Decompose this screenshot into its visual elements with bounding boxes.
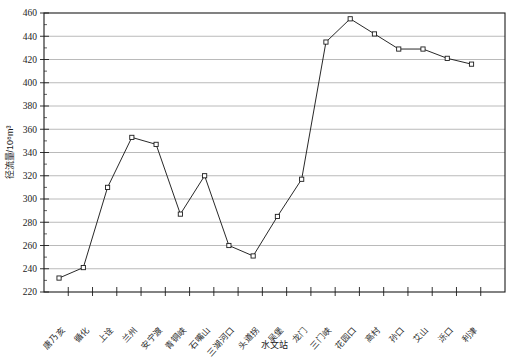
y-tick-label: 260 [23,241,38,251]
y-axis-title: 径流量/10⁸m³ [4,126,15,180]
y-tick-label: 340 [23,148,38,158]
y-tick-label: 360 [23,125,38,135]
data-point-marker [397,47,401,51]
y-tick-label: 440 [23,32,38,42]
y-tick-label: 240 [23,264,38,274]
x-axis-title: 水文站 [261,339,288,350]
data-point-marker [178,212,182,216]
data-point-marker [324,40,328,44]
chart-background [0,0,517,360]
data-point-marker [300,177,304,181]
data-point-marker [445,56,449,60]
y-tick-label: 300 [23,194,38,204]
y-tick-label: 380 [23,101,38,111]
data-point-marker [81,265,85,269]
data-point-marker [251,254,255,258]
data-point-marker [105,185,109,189]
y-tick-label: 280 [23,218,38,228]
data-point-marker [130,135,134,139]
data-point-marker [275,214,279,218]
runoff-line-chart: 220240260280300320340360380400420440460 … [0,0,517,360]
data-point-marker [154,142,158,146]
chart-canvas: 220240260280300320340360380400420440460 … [0,0,517,360]
data-point-marker [348,17,352,21]
data-point-marker [203,174,207,178]
data-point-marker [227,243,231,247]
data-point-marker [57,276,61,280]
y-tick-label: 320 [23,171,38,181]
y-tick-label: 460 [23,8,38,18]
y-tick-label: 400 [23,78,38,88]
y-tick-label: 220 [23,287,38,297]
data-point-marker [469,62,473,66]
y-tick-label: 420 [23,55,38,65]
data-point-marker [421,47,425,51]
data-point-marker [372,32,376,36]
